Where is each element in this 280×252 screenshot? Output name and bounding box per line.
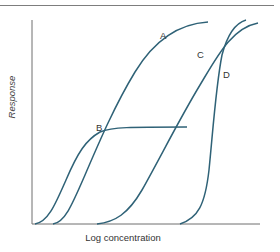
x-axis-label: Log concentration (85, 232, 161, 243)
curve-c (97, 23, 258, 224)
curve-b (35, 127, 187, 224)
curve-a (53, 22, 208, 224)
curve-d-label: D (223, 69, 230, 80)
curve-d (180, 20, 246, 224)
y-axis-label: Response (6, 76, 17, 119)
curve-c-label: C (197, 49, 204, 60)
curve-a-label: A (160, 30, 167, 41)
dose-response-plot: A B C D (0, 0, 280, 252)
curve-b-label: B (96, 122, 102, 133)
